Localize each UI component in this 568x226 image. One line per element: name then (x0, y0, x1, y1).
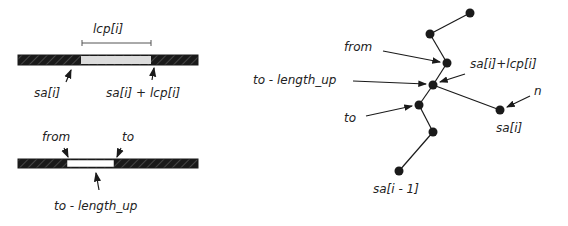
tree-node (429, 128, 438, 137)
bottom-string-bar (18, 159, 198, 168)
sa-plus-lcp-label: sa[i] + lcp[i] (106, 86, 181, 100)
tree-node (426, 30, 435, 39)
tree-node-sa-i-minus-1 (395, 167, 404, 176)
tree-from-label: from (344, 40, 372, 54)
sa-i-arrow (66, 70, 71, 82)
tree-to-length-up-label: to - length_up (253, 73, 337, 87)
top-string-bar (18, 55, 198, 65)
tree-to-label: to (344, 111, 356, 125)
length-up-arrow (96, 173, 99, 190)
lcp-span-bracket (82, 40, 151, 46)
tree-nodes (395, 9, 505, 176)
sa-plus-lcp-arrow (152, 68, 154, 80)
tree-edges (399, 13, 500, 171)
lcp-label: lcp[i] (93, 22, 124, 36)
to-label: to (122, 130, 134, 144)
lcp-highlight-segment (81, 56, 151, 64)
to-length-up-label: to - length_up (54, 199, 138, 213)
tree-node (466, 9, 475, 18)
diagram-canvas: lcp[i] sa[i] sa[i] + lcp[i] from to to -… (0, 0, 568, 226)
from-to-segment (67, 160, 114, 167)
from-label: from (42, 130, 70, 144)
tree-node-to-length-up (429, 81, 438, 90)
tree-sa-plus-lcp-label: sa[i]+lcp[i] (470, 57, 537, 71)
tree-node-to (415, 101, 424, 110)
to-arrow (117, 148, 121, 157)
tree-sa-i-label: sa[i] (496, 121, 523, 135)
tree-node-from (443, 59, 452, 68)
tree-sa-i-minus-1-label: sa[i - 1] (373, 182, 419, 196)
tree-node-sa-i (496, 106, 505, 115)
sa-i-label: sa[i] (34, 86, 61, 100)
from-arrow (64, 148, 68, 157)
tree-n-label: n (534, 84, 542, 98)
